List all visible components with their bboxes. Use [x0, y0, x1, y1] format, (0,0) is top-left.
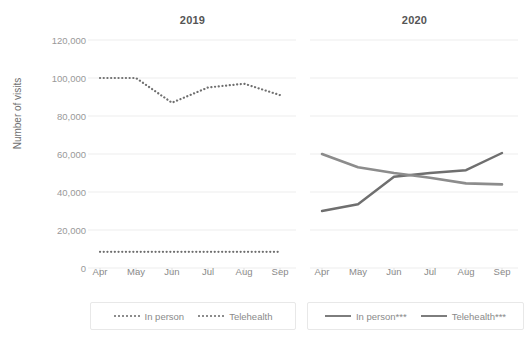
x-tick-2019-sep: Sep: [272, 266, 289, 277]
series-line-2020-in-person: [322, 153, 502, 211]
series-line-2019-in-person: [100, 78, 280, 103]
plot-area-2020: [310, 34, 518, 274]
legend-2019: In person Telehealth: [90, 302, 296, 330]
x-tick-2019-jul: Jul: [202, 266, 214, 277]
chart-figure: 2019 2020 Number of visits 120,000 100,0…: [0, 0, 532, 355]
legend-item-2019-telehealth[interactable]: Telehealth: [198, 311, 272, 322]
y-tick-60000: 60,000: [32, 149, 86, 160]
y-tick-120000: 120,000: [32, 35, 86, 46]
legend-label-2019-telehealth: Telehealth: [229, 311, 272, 322]
plot-area-2019: [88, 34, 296, 274]
y-tick-0: 0: [32, 263, 86, 274]
legend-item-2019-in-person[interactable]: In person: [114, 311, 185, 322]
y-axis-title: Number of visits: [12, 59, 23, 169]
legend-label-2020-in-person: In person***: [356, 311, 407, 322]
x-tick-2020-jul: Jul: [424, 266, 436, 277]
solid-line-swatch-icon: [421, 315, 447, 317]
y-tick-80000: 80,000: [32, 111, 86, 122]
legend-label-2020-telehealth: Telehealth***: [452, 311, 506, 322]
x-tick-2020-sep: Sep: [494, 266, 511, 277]
gridlines-2020: [310, 40, 518, 268]
x-tick-2020-may: May: [349, 266, 367, 277]
legend-item-2020-in-person[interactable]: In person***: [325, 311, 407, 322]
legend-2020: In person*** Telehealth***: [307, 302, 524, 330]
y-axis-ticks: 120,000 100,000 80,000 60,000 40,000 20,…: [30, 0, 86, 355]
x-tick-2019-may: May: [127, 266, 145, 277]
solid-line-swatch-icon: [325, 315, 351, 317]
panel-title-2020: 2020: [312, 14, 517, 26]
dotted-line-swatch-icon: [114, 315, 140, 317]
legend-label-2019-in-person: In person: [145, 311, 185, 322]
y-tick-40000: 40,000: [32, 187, 86, 198]
gridlines-2019: [88, 40, 296, 268]
x-tick-2020-apr: Apr: [315, 266, 330, 277]
x-tick-2019-jun: Jun: [164, 266, 179, 277]
legend-item-2020-telehealth[interactable]: Telehealth***: [421, 311, 506, 322]
y-tick-20000: 20,000: [32, 225, 86, 236]
panel-title-2019: 2019: [95, 14, 290, 26]
x-tick-2019-apr: Apr: [93, 266, 108, 277]
y-tick-100000: 100,000: [32, 73, 86, 84]
dotted-line-swatch-icon: [198, 315, 224, 317]
series-line-2020-telehealth: [322, 154, 502, 184]
x-tick-2020-jun: Jun: [386, 266, 401, 277]
x-tick-2019-aug: Aug: [236, 266, 253, 277]
x-tick-2020-aug: Aug: [458, 266, 475, 277]
